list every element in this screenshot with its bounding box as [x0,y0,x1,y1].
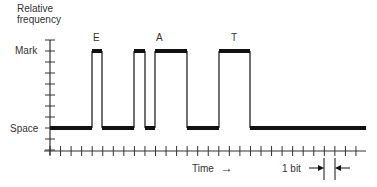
one-bit-marker [309,158,350,180]
right-arrow-icon: → [221,161,233,175]
letter-t-label: T [231,32,237,43]
space-level-label: Space [10,123,38,134]
y-axis-label-line2: frequency [17,14,61,25]
time-axis-label: Time → [192,163,233,174]
time-label-text: Time [192,163,214,174]
letter-e-label: E [93,32,100,43]
y-axis-label-line1: Relative [17,3,61,14]
waveform [50,51,366,128]
y-axis-label: Relative frequency [17,3,61,25]
mark-level-label: Mark [15,45,37,56]
one-bit-label: 1 bit [282,163,301,174]
fsk-diagram [0,0,377,187]
letter-a-label: A [156,32,163,43]
